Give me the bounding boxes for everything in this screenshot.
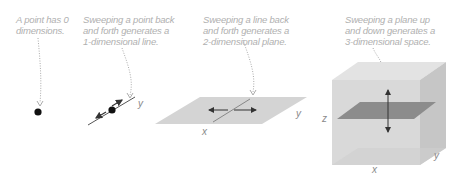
plane-x-label: x	[202, 126, 207, 137]
line-y-label: y	[138, 98, 143, 109]
caption-space: Sweeping a plane up and down generates a…	[345, 14, 435, 47]
point-icon	[108, 106, 115, 113]
point-icon	[34, 108, 41, 115]
cube-z-label: z	[322, 113, 327, 124]
pointer-dotted-3	[243, 40, 254, 92]
plane-y-label: y	[296, 108, 301, 119]
caption-point: A point has 0 dimensions.	[16, 14, 69, 36]
caption-plane: Sweeping a line back and forth generates…	[203, 14, 289, 47]
panel-cube	[332, 48, 446, 165]
panel-point	[34, 38, 43, 116]
caption-line: Sweeping a point back and forth generate…	[83, 14, 174, 47]
cube-x-label: x	[372, 164, 377, 175]
panel-plane	[155, 40, 307, 124]
cube-y-label: y	[434, 150, 439, 161]
pointer-dotted-1	[38, 38, 41, 103]
panel-line	[88, 48, 135, 125]
pointer-dotted-2	[122, 48, 131, 95]
